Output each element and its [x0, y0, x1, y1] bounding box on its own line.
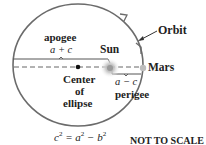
formula: c2 = a2 − b2 [54, 131, 106, 143]
apogee-expression: a + c [50, 45, 72, 56]
perigee-label: perigee [115, 89, 149, 100]
not-to-scale-note: NOT TO SCALE [130, 136, 204, 145]
perigee-expression: a − c [115, 77, 137, 88]
center-of-label: of [75, 86, 84, 97]
orbit-label: Orbit [158, 24, 187, 36]
mars-label: Mars [148, 62, 174, 74]
mars [140, 65, 146, 71]
orbit-diagram [0, 0, 206, 145]
center-dot [76, 65, 81, 70]
center-label: Center [63, 74, 95, 85]
apogee-label: apogee [44, 32, 76, 43]
orbit-pointer-arrowhead-icon [138, 36, 144, 41]
formula-exp-3: 2 [103, 130, 107, 138]
sun-label: Sun [100, 44, 119, 56]
sun [107, 65, 113, 71]
formula-a: = a [62, 131, 80, 143]
formula-b: − b [84, 131, 102, 143]
center-ellipse-label: ellipse [63, 98, 92, 109]
